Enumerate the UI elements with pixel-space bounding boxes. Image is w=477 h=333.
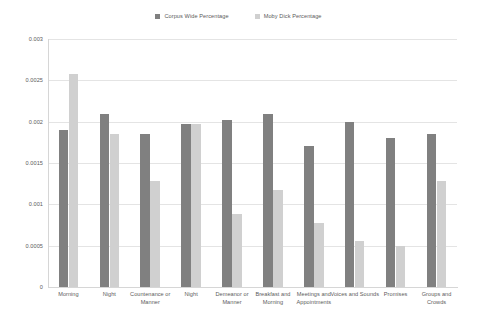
legend-entry[interactable]: Moby Dick Percentage [255, 13, 322, 19]
y-axis-tick-label: 0.0005 [26, 243, 48, 249]
bar-chart: Corpus Wide PercentageMoby Dick Percenta… [0, 0, 477, 333]
y-axis-tick-label: 0.001 [29, 201, 48, 207]
legend-label: Moby Dick Percentage [264, 13, 322, 19]
x-axis-labels: MorningNightCountenance or MannerNightDe… [48, 291, 457, 331]
bar[interactable] [273, 190, 283, 287]
bar-group [48, 39, 89, 287]
legend-entry[interactable]: Corpus Wide Percentage [155, 13, 228, 19]
bar[interactable] [69, 74, 79, 287]
bar-group [253, 39, 294, 287]
y-axis-tick-label: 0.0025 [26, 77, 48, 83]
bar-group [130, 39, 171, 287]
legend-swatch-icon [155, 14, 160, 19]
y-axis-tick-label: 0.0015 [26, 160, 48, 166]
bar[interactable] [110, 134, 120, 287]
bar[interactable] [314, 223, 324, 287]
bar[interactable] [181, 124, 191, 287]
bar-group [334, 39, 375, 287]
bar[interactable] [386, 138, 396, 287]
bar[interactable] [437, 181, 447, 287]
y-axis-tick-label: 0.003 [29, 36, 48, 42]
bar[interactable] [191, 124, 201, 287]
bar[interactable] [100, 114, 110, 287]
bar-group [171, 39, 212, 287]
bar[interactable] [232, 214, 242, 287]
bar[interactable] [59, 130, 69, 287]
bar[interactable] [345, 122, 355, 287]
bar-group [416, 39, 457, 287]
bar[interactable] [304, 146, 314, 287]
bar[interactable] [427, 134, 437, 287]
x-axis-category-label: Groups and Crowds [412, 291, 461, 306]
bar[interactable] [140, 134, 150, 287]
bar[interactable] [396, 246, 406, 287]
bar[interactable] [355, 241, 365, 287]
chart-legend: Corpus Wide PercentageMoby Dick Percenta… [0, 13, 477, 19]
bar[interactable] [222, 120, 232, 287]
bar-group [89, 39, 130, 287]
bar-group [375, 39, 416, 287]
bar-group [293, 39, 334, 287]
x-axis-line [48, 287, 458, 288]
bar[interactable] [263, 114, 273, 287]
legend-label: Corpus Wide Percentage [164, 13, 228, 19]
bars-layer [48, 39, 457, 287]
y-axis-tick-label: 0.002 [29, 119, 48, 125]
legend-swatch-icon [255, 14, 260, 19]
y-axis-tick-label: 0 [40, 284, 48, 290]
bar-group [212, 39, 253, 287]
bar[interactable] [150, 181, 160, 287]
